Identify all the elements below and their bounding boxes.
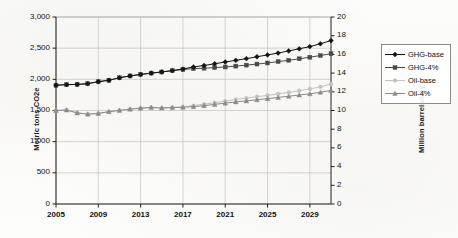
x-axis-tick: 2005 xyxy=(36,210,76,219)
y-axis-left-tick: 1,500 xyxy=(8,105,50,114)
legend-marker-diamond-icon xyxy=(384,49,406,60)
plot-area xyxy=(0,0,458,238)
y-axis-left-tick: 1,000 xyxy=(8,136,50,145)
x-axis-tick: 2029 xyxy=(290,210,330,219)
y-axis-left-tick: 0 xyxy=(8,199,50,208)
legend-item-oil-4-[interactable]: Oil-4% xyxy=(384,87,447,100)
legend-item-oil-base[interactable]: Oil-base xyxy=(384,74,447,87)
y-axis-right-tick: 2 xyxy=(337,180,341,189)
legend-label: GHG-base xyxy=(406,50,444,59)
y-axis-left-tick: 500 xyxy=(8,167,50,176)
y-axis-right-tick: 20 xyxy=(337,12,346,21)
y-axis-right-tick: 10 xyxy=(337,105,346,114)
y-axis-right-tick: 16 xyxy=(337,49,346,58)
y-axis-right-tick: 14 xyxy=(337,68,346,77)
y-axis-right-tick: 6 xyxy=(337,142,341,151)
x-axis-tick: 2017 xyxy=(163,210,203,219)
y-axis-left-tick: 2,000 xyxy=(8,74,50,83)
legend-marker-triangle-icon xyxy=(384,88,406,99)
legend-label: Oil-4% xyxy=(406,89,431,98)
legend-label: Oil-base xyxy=(406,76,436,85)
series-oil-base xyxy=(54,82,333,116)
y-axis-right-tick: 4 xyxy=(337,161,341,170)
y-axis-right-tick: 8 xyxy=(337,124,341,133)
y-axis-left-tick: 3,000 xyxy=(8,12,50,21)
series-ghg-base xyxy=(54,38,334,87)
y-axis-left-tick: 2,500 xyxy=(8,43,50,52)
y-axis-right-tick: 12 xyxy=(337,86,346,95)
x-axis-tick: 2013 xyxy=(121,210,161,219)
legend-label: GHG-4% xyxy=(406,63,438,72)
legend-item-ghg-base[interactable]: GHG-base xyxy=(384,48,447,61)
x-axis-tick: 2009 xyxy=(78,210,118,219)
legend-marker-circle-icon xyxy=(384,75,406,86)
chart-legend: GHG-baseGHG-4%Oil-baseOil-4% xyxy=(381,44,451,104)
legend-marker-square-icon xyxy=(384,62,406,73)
chart-container: Metric tons CO2e Million barrels/day 050… xyxy=(0,0,458,238)
x-axis-tick: 2025 xyxy=(248,210,288,219)
x-axis-tick: 2021 xyxy=(205,210,245,219)
legend-item-ghg-4-[interactable]: GHG-4% xyxy=(384,61,447,74)
y-axis-right-tick: 18 xyxy=(337,30,346,39)
y-axis-right-tick: 0 xyxy=(337,199,341,208)
